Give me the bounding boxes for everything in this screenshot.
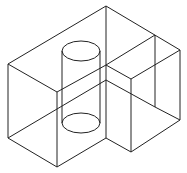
step-block-edges: [106, 35, 180, 152]
isometric-block-drawing: [0, 0, 187, 173]
main-block-edges: [8, 6, 180, 167]
